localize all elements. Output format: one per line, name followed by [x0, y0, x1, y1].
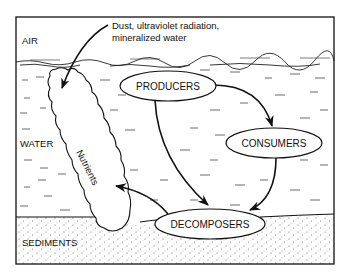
node-consumers: CONSUMERS	[226, 128, 322, 158]
arrow-producers-to-decomposers	[155, 100, 208, 205]
arrow-producers-to-consumers	[211, 85, 272, 126]
node-producers: PRODUCERS	[120, 71, 216, 101]
producers-label: PRODUCERS	[136, 81, 200, 92]
water-label: WATER	[20, 138, 53, 149]
nutrients-cloud	[48, 68, 131, 231]
ecosystem-diagram: Nutrients PRODUCERS CONSUMERS DECOMPOSER…	[0, 0, 350, 279]
decomposers-label: DECOMPOSERS	[171, 219, 250, 230]
consumers-label: CONSUMERS	[241, 138, 306, 149]
node-decomposers: DECOMPOSERS	[155, 209, 265, 239]
water-surface	[16, 51, 334, 70]
sediments-label: SEDIMENTS	[22, 237, 77, 248]
inputs-annotation-line1: Dust, ultraviolet radiation,	[112, 20, 219, 31]
air-label: AIR	[22, 35, 38, 46]
inputs-annotation-line2: mineralized water	[112, 32, 186, 43]
arrow-consumers-to-decomposers	[250, 158, 276, 210]
